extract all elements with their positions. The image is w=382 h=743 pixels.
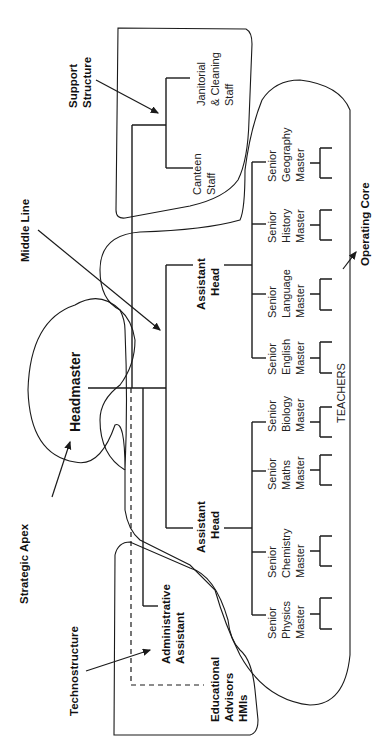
org-diagram: Support Structure Middle Line Strategic … xyxy=(0,0,382,743)
master-history: Senior History Master xyxy=(266,206,306,243)
master-biology: Senior Biology Master xyxy=(266,393,306,432)
master-maths: Senior Maths Master xyxy=(266,455,306,490)
administrative-assistant-label: Administrative Assistant xyxy=(160,581,186,664)
support-structure-label: Support Structure xyxy=(67,57,93,108)
master-geography: Senior Geography Master xyxy=(266,125,306,183)
assistant-head-lower: Assistant Head xyxy=(195,498,221,553)
strategic-apex-arrow xyxy=(52,442,70,497)
middle-line-label: Middle Line xyxy=(19,199,31,262)
master-chemistry: Senior Chemistry Master xyxy=(266,525,306,578)
janitorial-staff-label: Janitorial & Cleaning Staff xyxy=(195,49,235,106)
technostructure-arrow xyxy=(86,650,150,671)
master-language: Senior Language Master xyxy=(266,266,306,318)
strategic-apex-label: Strategic Apex xyxy=(18,523,30,604)
technostructure-label: Technostructure xyxy=(68,626,80,716)
headmaster-label: Headmaster xyxy=(67,351,83,432)
support-structure-boundary xyxy=(116,28,252,218)
operating-core-label: Operating Core xyxy=(359,182,371,266)
teachers-label: TEACHERS xyxy=(335,363,347,423)
assistant-head-upper: Assistant Head xyxy=(195,255,221,310)
master-physics: Senior Physics Master xyxy=(266,598,306,639)
educational-advisors-label: Educational Advisors HMIs xyxy=(209,654,249,722)
canteen-staff-label: Canteen Staff xyxy=(191,150,217,195)
teacher-brackets xyxy=(310,148,332,629)
support-structure-arrow xyxy=(96,80,158,113)
master-english: Senior English Master xyxy=(266,336,306,375)
